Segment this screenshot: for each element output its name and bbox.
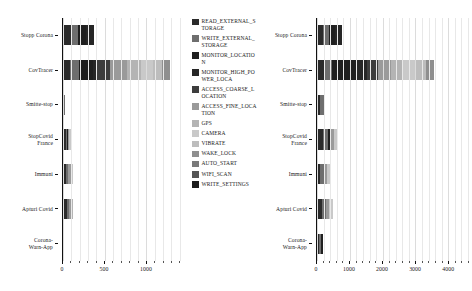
bar-row[interactable] xyxy=(63,87,182,122)
x-axis-tick-mark xyxy=(112,261,113,263)
legend-item[interactable]: CAMERA xyxy=(192,130,258,137)
y-axis-tick-mark xyxy=(55,243,58,244)
bar-row[interactable] xyxy=(317,157,468,192)
gridline xyxy=(468,18,469,261)
legend-swatch-icon xyxy=(192,161,199,168)
gridline xyxy=(448,18,449,261)
bar-row[interactable] xyxy=(63,53,182,88)
x-axis-tick-mark xyxy=(96,261,97,263)
gridline xyxy=(337,18,338,261)
gridline xyxy=(63,18,64,261)
legend-swatch-icon xyxy=(192,69,199,76)
stacked-bar[interactable] xyxy=(317,129,372,149)
y-axis-tick-label: Smitte-stop xyxy=(258,87,312,122)
bar-segment[interactable] xyxy=(63,25,71,45)
gridline xyxy=(324,18,325,261)
bar-row[interactable] xyxy=(63,226,182,261)
gridline xyxy=(389,18,390,261)
bar-row[interactable] xyxy=(63,122,182,157)
legend-swatch-icon xyxy=(192,52,199,59)
x-axis-tick-mark xyxy=(455,261,456,263)
x-axis-tick-mark xyxy=(121,261,122,263)
legend-item[interactable]: VIBRATE xyxy=(192,140,258,147)
legend-item[interactable]: WRITE_SETTINGS xyxy=(192,181,258,188)
gridline xyxy=(138,18,139,261)
y-axis-tick-mark xyxy=(309,243,312,244)
gridline xyxy=(71,18,72,261)
y-axis-tick-label: Corona- Warn-App xyxy=(258,226,312,261)
x-axis-tick-mark xyxy=(395,261,396,263)
bar-segment[interactable] xyxy=(63,60,70,80)
legend-item-label: WIFI_SCAN xyxy=(202,171,258,178)
legend-swatch-icon xyxy=(192,35,199,42)
bar-row[interactable] xyxy=(317,87,468,122)
legend-swatch-icon xyxy=(192,103,199,110)
x-axis-tick-mark xyxy=(146,261,147,264)
y-axis-tick-mark xyxy=(309,174,312,175)
legend-item[interactable]: WAKE_LOCK xyxy=(192,150,258,157)
gridline xyxy=(330,18,331,261)
legend-item[interactable]: GPS xyxy=(192,120,258,127)
bar-row[interactable] xyxy=(317,18,468,53)
y-axis-tick-mark xyxy=(55,35,58,36)
bar-segment[interactable] xyxy=(79,60,93,80)
x-axis-tick-mark xyxy=(316,261,317,264)
y-axis-tick-mark xyxy=(55,139,58,140)
legend-item-label: WAKE_LOCK xyxy=(202,150,258,157)
x-axis-tick-label: 3000 xyxy=(409,266,421,272)
legend-swatch-icon xyxy=(192,141,199,148)
x-axis-tick-mark xyxy=(342,261,343,263)
gridline xyxy=(422,18,423,261)
y-axis-tick-mark xyxy=(55,104,58,105)
legend-item-label: MONITOR_HIGH_POWER_LOCA xyxy=(202,69,258,83)
x-axis-tick-mark xyxy=(138,261,139,263)
legend-item[interactable]: WIFI_SCAN xyxy=(192,171,258,178)
legend-item-label: WRITE_EXTERNAL_STORAGE xyxy=(202,35,258,49)
legend-item[interactable]: READ_EXTERNAL_STORAGE xyxy=(192,18,258,32)
bar-row[interactable] xyxy=(317,122,468,157)
y-axis-tick-label: StopCovid France xyxy=(0,122,58,157)
bar-row[interactable] xyxy=(63,192,182,227)
x-axis-tick-mark xyxy=(336,261,337,263)
legend-item-label: ACCESS_FINE_LOCATION xyxy=(202,103,258,117)
legend-item[interactable]: WRITE_EXTERNAL_STORAGE xyxy=(192,35,258,49)
x-axis-left: 05001000 xyxy=(62,261,182,291)
x-axis-tick-mark xyxy=(356,261,357,263)
gridline xyxy=(343,18,344,261)
x-axis-tick-label: 0 xyxy=(315,266,318,272)
plot-area-left: 05001000 xyxy=(62,18,182,261)
x-axis-tick-mark xyxy=(461,261,462,263)
y-axis-tick-mark xyxy=(309,139,312,140)
bar-row[interactable] xyxy=(317,226,468,261)
x-axis-tick-mark xyxy=(70,261,71,263)
y-axis-tick-label: CovTracer xyxy=(258,53,312,88)
stacked-bar[interactable] xyxy=(63,95,75,115)
x-axis-tick-mark xyxy=(179,261,180,263)
bar-row[interactable] xyxy=(63,157,182,192)
x-axis-tick-mark xyxy=(129,261,130,263)
legend-item[interactable]: MONITOR_LOCATION xyxy=(192,52,258,66)
legend-item[interactable]: MONITOR_HIGH_POWER_LOCA xyxy=(192,69,258,83)
plot-right xyxy=(316,18,468,261)
chart-panel-right: Stopp CoronaCovTracerSmitte-stopStopCovi… xyxy=(258,0,472,291)
legend-item[interactable]: ACCESS_FINE_LOCATION xyxy=(192,103,258,117)
bar-segment[interactable] xyxy=(69,129,70,149)
legend-item[interactable]: ACCESS_COARSE_LOCATION xyxy=(192,86,258,100)
y-axis-tick-mark xyxy=(55,208,58,209)
gridline xyxy=(80,18,81,261)
legend-item[interactable]: AUTO_START xyxy=(192,160,258,167)
y-axis-tick-label: Smitte-stop xyxy=(0,87,58,122)
x-axis-tick-mark xyxy=(402,261,403,263)
legend-item-label: GPS xyxy=(202,120,258,127)
gridline xyxy=(180,18,181,261)
y-axis-tick-mark xyxy=(309,35,312,36)
legend: READ_EXTERNAL_STORAGEWRITE_EXTERNAL_STOR… xyxy=(192,18,258,188)
bar-segment[interactable] xyxy=(426,60,434,80)
gridline xyxy=(396,18,397,261)
gridline xyxy=(409,18,410,261)
bar-row[interactable] xyxy=(317,192,468,227)
bar-segment[interactable] xyxy=(415,60,426,80)
bar-row[interactable] xyxy=(63,18,182,53)
y-axis-tick-label: Stopp Corona xyxy=(258,18,312,53)
bar-row[interactable] xyxy=(317,53,468,88)
